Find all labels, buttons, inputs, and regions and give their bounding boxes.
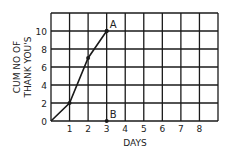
- grid: [51, 13, 218, 121]
- x-tick-label: 7: [178, 124, 184, 134]
- annotation-point: [105, 29, 109, 33]
- x-axis-label: DAYS: [123, 138, 147, 148]
- cumulative-thank-yous-chart: 0246810 12345678 AB DAYS CUM NO OF THANK…: [0, 0, 225, 151]
- x-tick-label: 4: [122, 124, 128, 134]
- y-tick-label: 10: [36, 27, 48, 37]
- series-line: [51, 31, 107, 121]
- x-tick-label: 5: [141, 124, 147, 134]
- x-tick-label: 6: [159, 124, 165, 134]
- y-tick-label: 2: [41, 99, 47, 109]
- y-axis-label: CUM NO OF THANK YOU'S: [12, 36, 33, 98]
- y-axis-label-line-2: THANK YOU'S: [23, 36, 33, 98]
- y-tick-label: 4: [41, 81, 47, 91]
- data-series: [51, 29, 109, 121]
- data-point: [68, 101, 72, 105]
- y-tick-label: 6: [41, 63, 47, 73]
- annotation-label-a: A: [110, 19, 117, 30]
- y-tick-label: 8: [41, 45, 47, 55]
- x-tick-label: 1: [67, 124, 73, 134]
- annotation-label-b: B: [110, 109, 117, 120]
- y-axis-label-line-1: CUM NO OF: [12, 41, 22, 93]
- y-tick-label: 0: [41, 117, 47, 127]
- x-axis-ticks: 12345678: [67, 124, 203, 134]
- annotation-point: [105, 119, 109, 123]
- data-point: [86, 56, 90, 60]
- x-tick-label: 3: [104, 124, 110, 134]
- y-axis-ticks: 0246810: [36, 27, 48, 127]
- x-tick-label: 8: [197, 124, 203, 134]
- x-tick-label: 2: [85, 124, 91, 134]
